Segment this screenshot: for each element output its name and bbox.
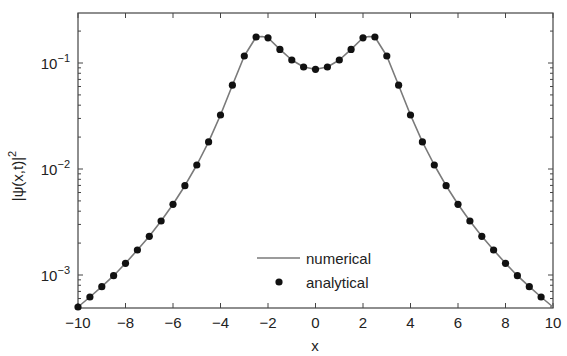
x-tick-label: −8 — [117, 314, 134, 331]
analytical-point — [454, 201, 461, 208]
x-tick-label: −4 — [212, 314, 229, 331]
analytical-point — [276, 46, 283, 53]
analytical-point — [110, 272, 117, 279]
analytical-point — [407, 111, 414, 118]
y-axis-label-exponent: 2 — [6, 151, 18, 157]
analytical-point — [264, 34, 271, 41]
analytical-point — [229, 82, 236, 89]
analytical-point — [86, 293, 93, 300]
legend: numerical analytical — [257, 250, 371, 291]
analytical-point — [359, 34, 366, 41]
analytical-point — [538, 293, 545, 300]
x-tick-label: 6 — [454, 314, 462, 331]
legend-dot-swatch — [275, 278, 282, 285]
analytical-point — [241, 52, 248, 59]
x-tick-label: 8 — [501, 314, 509, 331]
analytical-point — [158, 217, 165, 224]
analytical-point — [526, 283, 533, 290]
x-axis-label: x — [311, 337, 319, 354]
analytical-point — [134, 246, 141, 253]
analytical-point — [371, 33, 378, 40]
analytical-point — [383, 52, 390, 59]
analytical-point — [466, 217, 473, 224]
analytical-point — [431, 161, 438, 168]
x-tick-label: −2 — [259, 314, 276, 331]
x-tick-label: 10 — [545, 314, 562, 331]
analytical-point — [74, 303, 81, 310]
analytical-point — [253, 33, 260, 40]
analytical-point — [514, 272, 521, 279]
analytical-point — [348, 46, 355, 53]
x-tick-label: −6 — [164, 314, 181, 331]
analytical-point — [193, 161, 200, 168]
analytical-point — [217, 111, 224, 118]
analytical-point — [395, 82, 402, 89]
analytical-point — [324, 63, 331, 70]
line-chart: −10−8−6−4−20246810 10−310−210−1 x |ψ(x,t… — [0, 0, 567, 356]
legend-label-analytical: analytical — [306, 274, 369, 291]
y-axis-label: |ψ(x,t)|2 — [6, 151, 26, 201]
analytical-point — [478, 233, 485, 240]
analytical-point — [122, 260, 129, 267]
x-tick-label: 0 — [311, 314, 319, 331]
analytical-point — [146, 233, 153, 240]
y-axis-ticks: 10−310−210−1 — [41, 31, 553, 307]
analytical-point — [98, 283, 105, 290]
analytical-point — [502, 260, 509, 267]
analytical-point — [336, 56, 343, 63]
y-tick-label: 10−1 — [41, 52, 70, 72]
analytical-point — [490, 246, 497, 253]
analytical-point — [181, 182, 188, 189]
legend-label-numerical: numerical — [306, 250, 371, 267]
chart-container: −10−8−6−4−20246810 10−310−210−1 x |ψ(x,t… — [0, 0, 567, 356]
y-tick-label: 10−2 — [41, 158, 70, 178]
y-tick-label: 10−3 — [41, 264, 70, 284]
analytical-point — [443, 182, 450, 189]
x-tick-label: 4 — [406, 314, 414, 331]
analytical-point — [419, 138, 426, 145]
analytical-point — [205, 138, 212, 145]
y-axis-label-main: |ψ(x,t)| — [9, 157, 26, 201]
analytical-point — [300, 63, 307, 70]
x-tick-label: −10 — [65, 314, 90, 331]
analytical-point — [169, 201, 176, 208]
x-tick-label: 2 — [359, 314, 367, 331]
analytical-point — [312, 66, 319, 73]
analytical-point — [288, 56, 295, 63]
analytical-series — [74, 33, 544, 310]
